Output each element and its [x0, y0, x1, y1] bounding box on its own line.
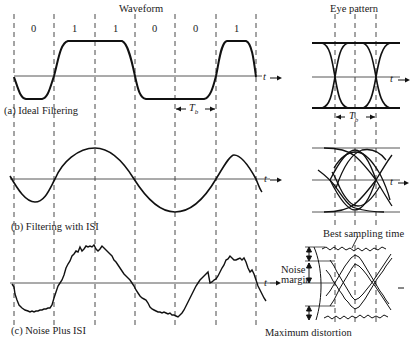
maximum-distortion-label: Maximum distortion — [265, 328, 352, 339]
waveform-c — [10, 245, 281, 317]
eye-pattern-header: Eye pattern — [330, 4, 378, 15]
bit-label: 1 — [72, 24, 77, 35]
time-axis-label-eye-b: t — [390, 177, 393, 188]
caption-c: (c) Noise Plus ISI — [11, 326, 86, 337]
time-axis-label-eye-a: t — [390, 74, 393, 85]
bit-period-label: Tb — [189, 103, 198, 116]
caption-a: (a) Ideal Filtering — [4, 106, 78, 117]
bit-label: 1 — [234, 24, 239, 35]
caption-b: (b) Filtering with ISI — [11, 222, 99, 233]
time-axis-label-a: t — [263, 72, 266, 83]
bit-period-label-eye: Tb — [349, 111, 358, 124]
best-sampling-time-label: Best sampling time — [323, 229, 404, 240]
eye-pattern-b — [312, 130, 409, 228]
time-axis-label-c: t — [264, 278, 267, 289]
bit-label: 0 — [193, 24, 198, 35]
waveform-b — [10, 148, 282, 212]
time-axis-label-b: t — [264, 174, 267, 185]
bit-label: 0 — [31, 24, 36, 35]
bit-label: 1 — [113, 24, 118, 35]
waveform-header: Waveform — [119, 4, 163, 15]
eye-pattern-a — [312, 14, 410, 130]
noise-margin-label-2: margin — [281, 275, 311, 286]
eye-pattern-c — [303, 236, 404, 325]
diagram-canvas — [0, 0, 416, 345]
bit-label: 0 — [152, 24, 157, 35]
